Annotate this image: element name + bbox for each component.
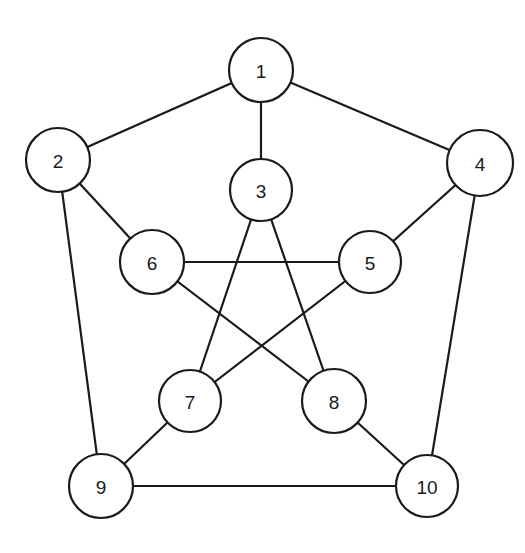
- node-label: 2: [53, 151, 64, 172]
- node-label: 8: [329, 392, 340, 413]
- node-label: 1: [256, 61, 267, 82]
- node-8: 8: [302, 369, 366, 433]
- edge-4-10: [427, 163, 480, 486]
- node-9: 9: [69, 454, 133, 518]
- node-label: 7: [185, 392, 196, 413]
- nodes-layer: 12345678910: [26, 38, 513, 518]
- node-label: 6: [147, 253, 158, 274]
- edge-3-8: [261, 190, 334, 401]
- node-6: 6: [120, 230, 184, 294]
- node-10: 10: [396, 455, 458, 517]
- node-7: 7: [159, 370, 221, 432]
- edge-1-4: [261, 70, 480, 163]
- edge-2-9: [58, 160, 101, 486]
- graph-canvas: 12345678910: [0, 0, 525, 553]
- edge-3-7: [190, 190, 261, 401]
- node-3: 3: [230, 159, 292, 221]
- node-2: 2: [26, 128, 90, 192]
- node-label: 5: [365, 253, 376, 274]
- node-1: 1: [229, 38, 293, 102]
- node-4: 4: [447, 130, 513, 196]
- node-label: 9: [96, 477, 107, 498]
- edge-1-2: [58, 70, 261, 160]
- node-label: 3: [256, 181, 267, 202]
- node-label: 10: [416, 477, 437, 498]
- node-5: 5: [339, 231, 401, 293]
- node-label: 4: [475, 154, 486, 175]
- graph-diagram: 12345678910: [0, 0, 525, 553]
- edges-layer: [58, 70, 480, 486]
